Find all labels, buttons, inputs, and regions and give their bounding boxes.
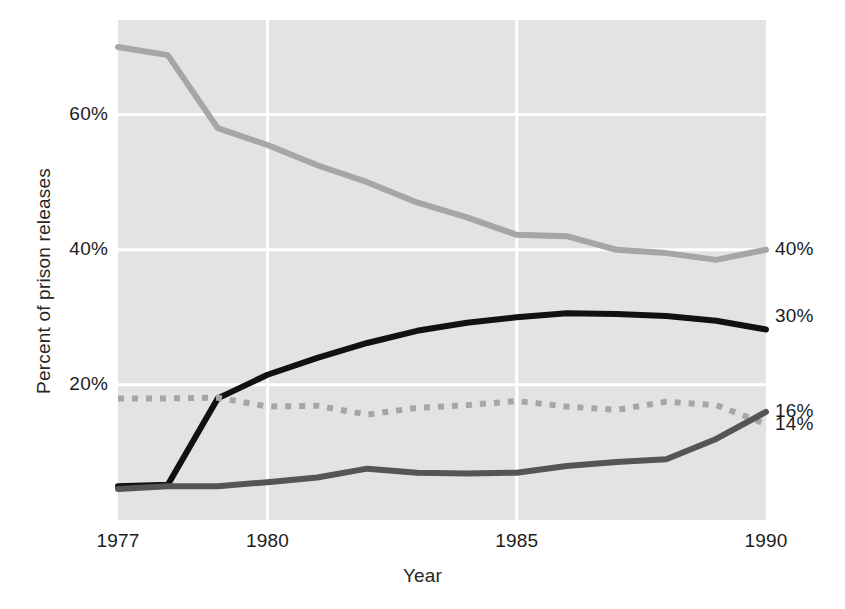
x-tick-label: 1977 bbox=[73, 530, 163, 552]
chart-container: Percent of prison releases Year 20%40%60… bbox=[0, 0, 845, 609]
y-tick-label: 60% bbox=[18, 103, 108, 125]
line-chart-plot bbox=[0, 0, 845, 609]
x-tick-label: 1985 bbox=[472, 530, 562, 552]
y-tick-label: 20% bbox=[18, 373, 108, 395]
end-label-light-gray-line: 40% bbox=[775, 238, 845, 260]
x-tick-label: 1980 bbox=[223, 530, 313, 552]
x-tick-label: 1990 bbox=[721, 530, 811, 552]
y-tick-label: 40% bbox=[18, 238, 108, 260]
end-label-black-line: 30% bbox=[775, 305, 845, 327]
end-label-dotted-gray-line: 14% bbox=[775, 413, 845, 435]
plot-background bbox=[118, 20, 766, 520]
x-axis-title: Year bbox=[0, 565, 845, 587]
